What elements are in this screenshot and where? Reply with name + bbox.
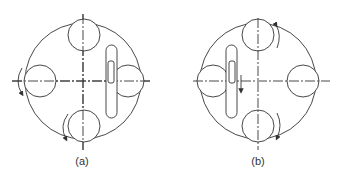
panel-b [193,18,330,150]
panel-a-label: (a) [67,155,97,167]
diagram-canvas [0,0,340,179]
wheel-top [68,19,100,51]
panel-a [12,14,152,150]
rotation-arrow-top [276,25,279,48]
panel-b-label: (b) [243,155,273,167]
rotation-arrow-bottom [277,113,280,138]
wheel-bottom [68,110,100,142]
